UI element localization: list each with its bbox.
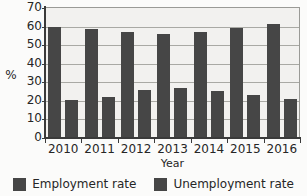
bar (267, 24, 280, 137)
x-tick-label: 2015 (230, 142, 261, 156)
x-tick-label: 2016 (267, 142, 298, 156)
bar (65, 100, 78, 137)
bar (121, 32, 134, 137)
y-tick-label: 60 (27, 20, 42, 32)
bars-layer (45, 7, 300, 137)
bar-group (227, 7, 263, 137)
y-tick-label: 40 (27, 57, 42, 69)
bar-group (264, 7, 300, 137)
y-axis-tick-labels: 010203040506070 (20, 0, 42, 145)
bar (230, 28, 243, 137)
bar-group (118, 7, 154, 137)
y-tick-label: 20 (27, 94, 42, 106)
y-tick-label: 0 (34, 131, 42, 143)
bar (174, 88, 187, 137)
bar-group (81, 7, 117, 137)
bar-group (45, 7, 81, 137)
bar (138, 90, 151, 137)
y-tick-label: 70 (27, 1, 42, 13)
bar-group (191, 7, 227, 137)
bar (102, 97, 115, 137)
x-tick-label: 2014 (194, 142, 225, 156)
bar (194, 32, 207, 137)
y-tick-label: 30 (27, 75, 42, 87)
bar (157, 34, 170, 137)
x-axis-tick-labels: 2010201120122013201420152016 (45, 142, 300, 158)
bar (247, 95, 260, 137)
legend-item: Employment rate (13, 178, 136, 191)
chart-legend: Employment rateUnemployment rate (0, 174, 307, 194)
y-axis-title: % (2, 68, 20, 82)
legend-swatch-icon (13, 178, 26, 191)
bar-chart: % 010203040506070 2010201120122013201420… (0, 0, 307, 196)
x-tick-mark (300, 139, 301, 143)
x-tick-label: 2013 (157, 142, 188, 156)
legend-label: Employment rate (32, 178, 136, 191)
bar (284, 99, 297, 137)
y-tick-label: 50 (27, 38, 42, 50)
x-axis-title: Year (45, 157, 300, 170)
legend-swatch-icon (154, 178, 167, 191)
x-tick-label: 2011 (84, 142, 115, 156)
x-tick-label: 2010 (48, 142, 79, 156)
y-tick-label: 10 (27, 112, 42, 124)
bar (211, 91, 224, 137)
bar-group (154, 7, 190, 137)
x-tick-label: 2012 (121, 142, 152, 156)
legend-label: Unemployment rate (173, 178, 293, 191)
bar (85, 29, 98, 137)
legend-item: Unemployment rate (154, 178, 293, 191)
bar (48, 27, 61, 137)
